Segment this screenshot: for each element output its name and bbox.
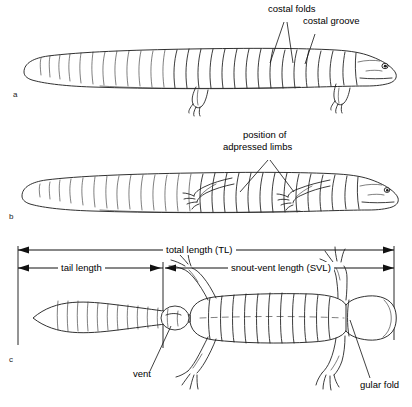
label-vent: vent [133, 368, 151, 379]
panel-label-c: c [9, 355, 13, 364]
panel-a-drawing [24, 22, 396, 116]
panel-b-drawing [22, 160, 398, 213]
label-adpressed-limbs-line2: adpressed limbs [223, 141, 292, 152]
vent-leader [150, 326, 171, 371]
figure-artwork [0, 0, 412, 407]
label-costal-groove: costal groove [303, 15, 360, 26]
label-total-length: total length (TL) [163, 244, 236, 255]
label-tail-length: tail length [58, 262, 105, 273]
panel-label-b: b [9, 212, 13, 221]
salamander-morphology-figure: costal folds costal groove position of a… [0, 0, 412, 407]
label-gular-fold: gular fold [360, 379, 399, 390]
label-snout-vent-length: snout-vent length (SVL) [228, 262, 334, 273]
label-costal-folds: costal folds [268, 3, 316, 14]
label-adpressed-limbs-line1: position of [243, 129, 286, 140]
panel-label-a: a [13, 90, 17, 99]
